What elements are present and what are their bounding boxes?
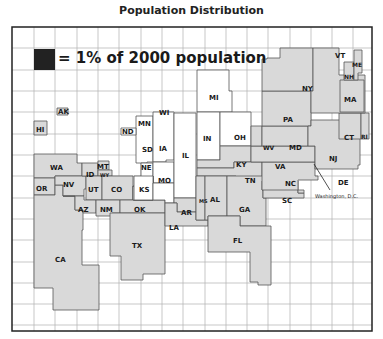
label-wv: WV	[263, 144, 275, 151]
label-sd: SD	[142, 146, 153, 154]
label-ne: NE	[141, 164, 152, 172]
label-nd: ND	[122, 128, 134, 136]
label-ks: KS	[139, 186, 149, 194]
label-hi: HI	[36, 126, 44, 134]
label-ut: UT	[88, 186, 99, 194]
label-me: ME	[352, 61, 362, 68]
label-nm: NM	[100, 206, 113, 214]
label-ca: CA	[55, 256, 66, 264]
label-wa: WA	[50, 164, 63, 172]
label-tn: TN	[245, 177, 256, 185]
label-ma: MA	[344, 96, 357, 104]
label-ri: RI	[361, 133, 368, 140]
legend-text: = 1% of 2000 population	[58, 49, 267, 67]
label-ky: KY	[236, 161, 247, 169]
label-az: AZ	[78, 206, 89, 214]
state-wi[interactable]	[153, 112, 174, 162]
label-nh: NH	[344, 73, 354, 80]
label-nv: NV	[63, 181, 75, 189]
state-wv[interactable]	[251, 126, 262, 146]
label-fl: FL	[233, 237, 243, 245]
label-ga: GA	[239, 206, 251, 214]
state-md[interactable]	[262, 126, 308, 146]
label-tx: TX	[132, 242, 143, 250]
label-sc: SC	[282, 197, 292, 205]
state-va[interactable]	[251, 146, 315, 162]
label-mo: MO	[158, 177, 171, 185]
label-la: LA	[169, 224, 179, 232]
label-il: IL	[182, 152, 190, 160]
label-ms: MS	[199, 198, 208, 204]
state-fl[interactable]	[208, 216, 271, 285]
label-co: CO	[111, 186, 122, 194]
label-in: IN	[203, 135, 212, 143]
label-ia: IA	[159, 145, 168, 153]
label-ok: OK	[134, 206, 146, 214]
label-mi: MI	[209, 94, 219, 102]
label-mn: MN	[138, 120, 151, 128]
label-oh: OH	[234, 134, 246, 142]
label-va: VA	[275, 163, 286, 171]
label-al: AL	[210, 196, 220, 204]
label-ny: NY	[302, 85, 314, 93]
label-wi: WI	[159, 109, 169, 117]
legend-swatch	[34, 49, 55, 70]
label-or: OR	[36, 185, 48, 193]
state-nc[interactable]	[262, 162, 318, 193]
label-de: DE	[338, 179, 349, 187]
label-mt: MT	[97, 163, 109, 171]
label-nj: NJ	[329, 155, 337, 163]
label-id: ID	[86, 171, 95, 179]
label-vt: VT	[335, 52, 345, 60]
label-md: MD	[289, 144, 302, 152]
label-ak: AK	[58, 108, 69, 116]
label-wy: WY	[100, 172, 110, 178]
label-pa: PA	[283, 116, 293, 124]
label-dc: Washington, D.C.	[315, 193, 358, 200]
state-mo[interactable]	[153, 183, 174, 203]
state-mi[interactable]	[197, 70, 232, 112]
label-nc: NC	[285, 180, 296, 188]
label-ct: CT	[344, 134, 354, 142]
label-ar: AR	[181, 209, 192, 217]
